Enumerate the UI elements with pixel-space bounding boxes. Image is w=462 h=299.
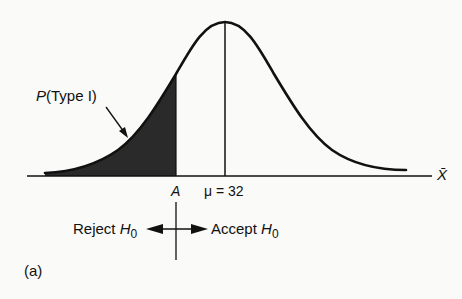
critical-value-label: A [170,183,180,199]
pointer-arrow-line [106,107,124,132]
reject-arrow-head [146,224,163,234]
pointer-arrow-head [119,127,128,138]
mean-label: μ = 32 [204,183,244,199]
hypothesis-test-diagram: P(Type I) X̄ A μ = 32 Reject H0 Accept H… [0,0,462,299]
accept-h0-label: Accept H0 [211,220,279,241]
panel-label: (a) [24,262,42,279]
x-bar-axis-label: X̄ [436,166,448,183]
accept-arrow-head [191,224,208,234]
type-one-error-label: P(Type I) [36,87,97,104]
reject-h0-label: Reject H0 [73,220,138,241]
